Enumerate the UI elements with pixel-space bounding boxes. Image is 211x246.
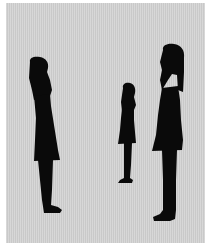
figure-left: [29, 57, 62, 213]
figure-middle: [118, 83, 136, 183]
figure-right: [152, 44, 184, 221]
silhouette-scene: [0, 0, 211, 246]
